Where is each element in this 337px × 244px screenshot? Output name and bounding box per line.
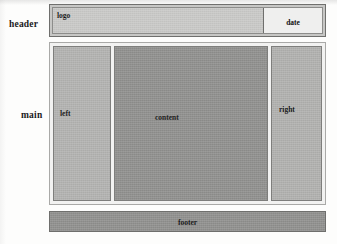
row-label-main: main	[21, 110, 42, 120]
logo-box: logo	[53, 8, 263, 33]
footer-label: footer	[50, 218, 325, 227]
paper-grain	[115, 47, 267, 200]
left-column-box: left	[53, 46, 111, 201]
row-label-header: header	[9, 19, 38, 29]
date-box: date	[263, 8, 322, 33]
left-column-label: left	[60, 109, 70, 118]
header-inner-frame: logo date	[52, 7, 323, 34]
paper-grain	[54, 47, 110, 200]
content-column-box: content	[114, 46, 268, 201]
layout-diagram: header main logo date left content right	[0, 0, 337, 244]
main-region: left content right	[49, 42, 326, 205]
footer-region: footer	[49, 211, 326, 232]
logo-label: logo	[57, 11, 70, 20]
paper-grain	[53, 8, 263, 33]
right-column-box: right	[271, 46, 322, 201]
paper-grain	[272, 47, 321, 200]
header-region: logo date	[49, 4, 326, 37]
date-label: date	[264, 18, 322, 27]
right-column-label: right	[279, 105, 295, 114]
content-column-label: content	[155, 113, 179, 122]
